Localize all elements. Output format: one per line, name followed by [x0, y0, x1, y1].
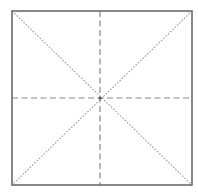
geometry-figure-root — [0, 0, 198, 193]
center-point — [98, 96, 101, 99]
figure-background — [0, 0, 198, 193]
figure-canvas — [0, 0, 198, 193]
